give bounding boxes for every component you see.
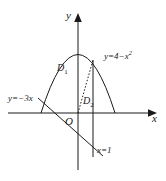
vertical-line-equation-label: x=1 (97, 146, 112, 155)
origin-label: O (65, 116, 73, 127)
region-label-d2: D2 (83, 96, 94, 109)
parabola-equation-label: y=4−x2 (104, 50, 132, 61)
line-equation-label: y=−3x (8, 94, 33, 103)
parabola-equation-exponent: 2 (129, 49, 132, 56)
coordinate-plane-graphic (0, 0, 166, 181)
math-figure: y x O y=−3x y=4−x2 x=1 D1 D2 (0, 0, 166, 181)
x-axis-label: x (152, 113, 157, 124)
y-axis-label: y (66, 10, 71, 21)
y-axis-arrowhead (74, 13, 82, 22)
y-axis (74, 13, 82, 170)
region-label-d2-subscript: 2 (90, 101, 94, 109)
x-axis (8, 109, 157, 117)
region-label-d1-subscript: 1 (64, 68, 68, 76)
parabola-equation-base: y=4−x (104, 51, 129, 61)
region-label-d1: D1 (57, 63, 68, 76)
